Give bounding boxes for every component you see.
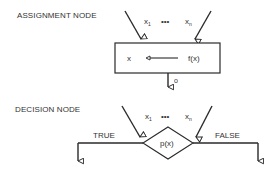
assignment-node: x1 ••• xn x f(x) o (115, 11, 220, 87)
input-arrow-xn (195, 11, 211, 39)
decision-input-arrow-x1 (122, 106, 140, 137)
output-label: o (174, 77, 178, 84)
false-label: FALSE (215, 131, 240, 140)
decision-node: x1 ••• xn p(x) TRUE FALSE (78, 106, 258, 161)
input-ellipsis: ••• (161, 17, 170, 26)
flowchart-diagram: x1 ••• xn x f(x) o x1 ••• xn p(x) TRUE F… (0, 0, 270, 173)
decision-input-x1-label: x1 (145, 112, 152, 122)
decision-input-arrow-xn (196, 106, 212, 137)
input-xn-label: xn (185, 17, 192, 27)
decision-input-xn-label: xn (185, 112, 192, 122)
input-x1-label: x1 (144, 17, 151, 27)
decision-predicate: p(x) (160, 139, 174, 148)
input-arrow-x1 (125, 11, 141, 39)
assignment-expression: f(x) (188, 54, 200, 63)
decision-input-ellipsis: ••• (161, 112, 170, 121)
true-label: TRUE (93, 131, 115, 140)
assignment-target-var: x (127, 54, 131, 63)
